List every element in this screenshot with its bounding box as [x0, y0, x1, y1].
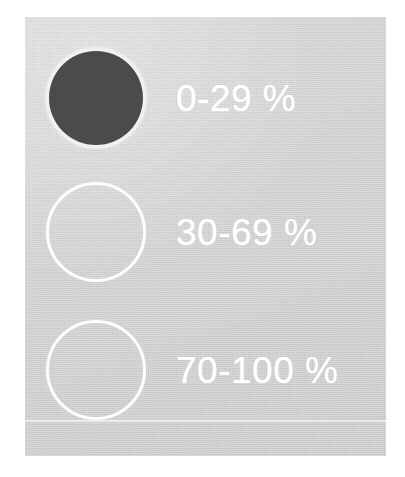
filled-circle-icon	[46, 48, 146, 148]
legend-item-label: 0-29 %	[176, 80, 296, 117]
legend-figure: 0-29 % 30-69 % 70-100 %	[0, 0, 405, 477]
hollow-circle-icon	[46, 320, 146, 420]
legend-item-0-29: 0-29 %	[46, 43, 386, 153]
legend-item-30-69: 30-69 %	[46, 177, 386, 287]
panel-divider-rule	[25, 420, 386, 422]
hollow-circle-icon	[46, 182, 146, 282]
legend-item-label: 30-69 %	[176, 214, 317, 251]
legend-panel: 0-29 % 30-69 % 70-100 %	[25, 17, 386, 456]
legend-item-70-100: 70-100 %	[46, 315, 386, 425]
legend-item-label: 70-100 %	[176, 352, 338, 389]
